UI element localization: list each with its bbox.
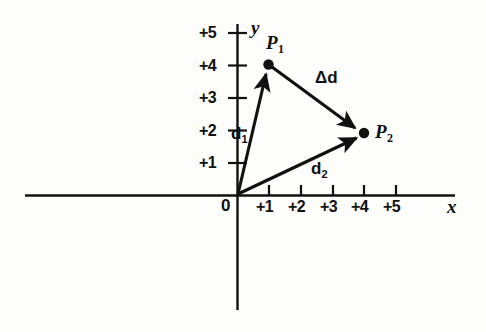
vector-label-d2-text: d (311, 159, 321, 178)
x-axis-ticks (269, 185, 396, 195)
y-tick-label-3: +3 (199, 89, 216, 107)
x-tick-label-2: +2 (288, 198, 305, 216)
vector-label-d2: d2 (311, 159, 328, 179)
point-label-p1-text: P (266, 32, 278, 53)
diagram-canvas (0, 0, 486, 332)
vector-label-d1-text: d (231, 124, 241, 143)
point-marker-p2 (359, 128, 369, 138)
point-label-p1: P1 (266, 32, 284, 54)
vector-label-delta-d: Δd (315, 68, 338, 88)
x-tick-label-3: +3 (320, 198, 337, 216)
y-tick-label-1: +1 (199, 154, 216, 172)
point-label-p2: P2 (375, 121, 393, 143)
vector-d2-arrow (238, 138, 357, 194)
vector-label-d1: d1 (231, 124, 248, 144)
vector-delta-d-arrow (272, 67, 355, 128)
y-tick-label-5: +5 (199, 24, 216, 42)
vector-label-d1-subscript: 1 (241, 133, 247, 145)
point-label-p2-text: P (375, 121, 387, 142)
point-label-p1-subscript: 1 (278, 42, 284, 56)
x-axis-label: x (447, 196, 457, 218)
origin-label: 0 (221, 196, 230, 216)
point-label-p2-subscript: 2 (387, 131, 393, 145)
vector-label-delta-d-text: Δd (315, 68, 338, 87)
point-marker-p1 (263, 59, 273, 69)
y-tick-label-4: +4 (199, 57, 216, 75)
x-tick-label-5: +5 (383, 198, 400, 216)
x-tick-label-1: +1 (256, 198, 273, 216)
x-tick-label-4: +4 (351, 198, 368, 216)
vector-label-d2-subscript: 2 (321, 168, 327, 180)
y-tick-label-2: +2 (199, 122, 216, 140)
vector-diagram: +5 +4 +3 +2 +1 +1 +2 +3 +4 +5 0 y x P1 P… (0, 0, 486, 332)
y-axis-label: y (251, 17, 259, 39)
